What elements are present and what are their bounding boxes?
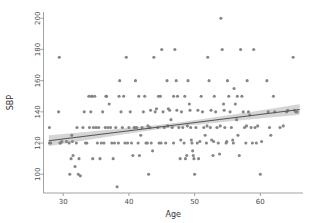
scatter-point — [143, 95, 146, 98]
scatter-point — [119, 110, 122, 113]
scatter-point — [65, 140, 68, 143]
scatter-point — [223, 126, 226, 129]
scatter-point — [282, 124, 285, 127]
scatter-point — [118, 79, 121, 82]
scatter-point — [292, 56, 295, 59]
scatter-point — [223, 109, 226, 112]
scatter-point — [172, 95, 175, 98]
scatter-point — [172, 142, 175, 145]
scatter-point — [238, 154, 241, 157]
y-tick-label: 140 — [34, 105, 42, 118]
scatter-point — [252, 48, 255, 51]
x-tick-label: 50 — [190, 198, 199, 206]
scatter-point — [244, 142, 247, 145]
scatter-point — [256, 124, 259, 127]
scatter-point — [175, 109, 178, 112]
scatter-point — [226, 79, 229, 82]
scatter-point — [211, 154, 214, 157]
scatter-point — [117, 142, 120, 145]
scatter-point — [127, 126, 130, 129]
scatter-point — [146, 124, 149, 127]
scatter-point — [219, 124, 222, 127]
scatter-point — [218, 152, 221, 155]
scatter-point — [240, 95, 243, 98]
scatter-point — [142, 110, 145, 113]
scatter-point — [104, 95, 107, 98]
scatter-point — [186, 79, 189, 82]
scatter-point — [171, 126, 174, 129]
scatter-point — [250, 126, 253, 129]
scatter-point — [155, 107, 158, 110]
scatter-point — [186, 124, 189, 127]
scatter-point — [133, 126, 136, 129]
scatter-point — [246, 79, 249, 82]
scatter-point — [75, 142, 78, 145]
y-tick-label: 200 — [34, 12, 42, 25]
scatter-point — [96, 142, 99, 145]
scatter-point — [278, 126, 281, 129]
scatter-point — [49, 142, 52, 145]
scatter-point — [112, 157, 115, 160]
scatter-point — [209, 126, 212, 129]
scatter-point — [149, 109, 152, 112]
scatter-point — [157, 95, 160, 98]
scatter-point — [229, 110, 232, 113]
scatter-point — [108, 103, 111, 106]
scatter-point — [230, 126, 233, 129]
scatter-point — [129, 110, 132, 113]
x-axis-title: Age — [166, 210, 182, 219]
scatter-point — [260, 140, 263, 143]
scatter-point — [253, 126, 256, 129]
scatter-point — [192, 154, 195, 157]
scatter-point — [242, 110, 245, 113]
scatter-point — [75, 126, 78, 129]
scatter-point — [151, 149, 154, 152]
scatter-point — [259, 173, 262, 176]
scatter-point — [181, 126, 184, 129]
scatter-point — [137, 95, 140, 98]
scatter-point — [73, 165, 76, 168]
scatter-point — [212, 140, 215, 143]
scatter-point — [219, 17, 222, 20]
scatter-point — [79, 174, 82, 177]
scatter-point — [198, 140, 201, 143]
scatter-point — [190, 138, 193, 141]
scatter-point — [268, 126, 271, 129]
scatter-point — [190, 142, 193, 145]
scatter-point — [130, 142, 133, 145]
scatter-point — [84, 142, 87, 145]
scatter-point — [204, 134, 207, 137]
scatter-point — [113, 142, 116, 145]
scatter-point — [209, 109, 212, 112]
scatter-point — [116, 185, 119, 188]
scatter-point — [235, 118, 238, 121]
scatter-point — [188, 109, 191, 112]
scatter-point — [91, 95, 94, 98]
scatter-point — [194, 126, 197, 129]
scatter-point — [191, 149, 194, 152]
scatter-point — [83, 110, 86, 113]
scatter-point — [196, 109, 199, 112]
scatter-point — [71, 140, 74, 143]
scatter-point — [217, 142, 220, 145]
scatter-point — [202, 126, 205, 129]
scatter-point — [197, 157, 200, 160]
y-tick-label: 100 — [34, 168, 42, 181]
scatter-point — [245, 124, 248, 127]
scatter-point — [70, 134, 73, 137]
scatter-point — [131, 154, 134, 157]
scatter-point — [179, 157, 182, 160]
scatter-point — [101, 110, 104, 113]
scatter-point — [215, 126, 218, 129]
scatter-point — [106, 126, 109, 129]
scatter-point — [60, 140, 63, 143]
scatter-point — [125, 56, 128, 59]
scatter-point — [265, 79, 268, 82]
scatter-point — [193, 173, 196, 176]
scatter-point — [173, 48, 176, 51]
scatter-point — [147, 173, 150, 176]
scatter-point — [231, 138, 234, 141]
scatter-point — [206, 56, 209, 59]
scatter-point — [139, 134, 142, 137]
scatter-point — [192, 157, 195, 160]
